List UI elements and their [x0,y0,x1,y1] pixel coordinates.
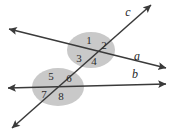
geometry-canvas [0,0,172,134]
line-b [8,84,166,88]
angle-label-3: 3 [73,53,85,64]
line-label-b: b [128,68,142,80]
angle-label-7: 7 [38,89,50,100]
angle-label-4: 4 [88,56,100,67]
line-c [12,5,151,128]
angle-label-2: 2 [98,40,110,51]
angle-label-5: 5 [45,71,57,82]
angle-label-6: 6 [63,73,75,84]
geometry-figure: a b c 1 2 3 4 5 6 7 8 [0,0,172,134]
angle-label-1: 1 [83,35,95,46]
line-label-c: c [121,6,135,18]
angle-label-8: 8 [55,91,67,102]
line-label-a: a [130,50,144,62]
